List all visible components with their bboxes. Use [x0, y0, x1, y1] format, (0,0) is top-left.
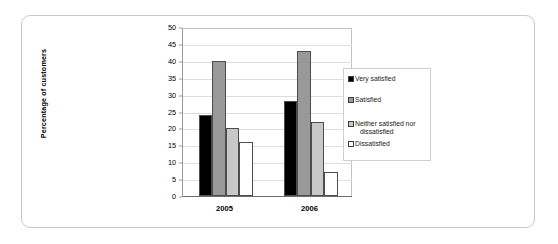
bar — [324, 172, 338, 196]
plot-area — [182, 28, 352, 197]
legend-swatch-icon — [348, 76, 354, 82]
y-tick-label: 20 — [168, 126, 176, 133]
legend-item[interactable]: Dissatisfied — [348, 140, 428, 148]
bar — [199, 115, 213, 196]
legend-label: Very satisfied — [355, 75, 395, 83]
bar — [284, 101, 298, 196]
y-tick-label: 30 — [168, 92, 176, 99]
bars-layer — [183, 28, 352, 196]
bar-chart: Percentage of customers 0510152025303540… — [22, 16, 536, 229]
bar — [239, 142, 253, 196]
legend-swatch-icon — [348, 121, 354, 127]
legend-item[interactable]: Satisfied — [348, 96, 428, 104]
legend-swatch-icon — [348, 97, 354, 103]
y-tick-label: 35 — [168, 75, 176, 82]
y-tick-label: 40 — [168, 58, 176, 65]
y-tick-label: 0 — [172, 193, 176, 200]
x-tick-label: 2006 — [301, 204, 318, 213]
bar — [212, 61, 226, 196]
y-tick-label: 25 — [168, 109, 176, 116]
y-tick-label: 45 — [168, 41, 176, 48]
legend-label: Neither satisfied nordissatisfied — [355, 120, 415, 137]
legend-item[interactable]: Very satisfied — [348, 75, 428, 83]
y-tick-label: 5 — [172, 176, 176, 183]
plot-wrapper: 05101520253035404550 20052006 — [161, 28, 352, 218]
x-tick-label: 2005 — [216, 204, 233, 213]
bar — [226, 128, 240, 196]
x-axis-labels: 20052006 — [182, 200, 352, 216]
legend-item[interactable]: Neither satisfied nordissatisfied — [348, 120, 428, 137]
legend-label: Dissatisfied — [355, 140, 390, 148]
y-axis-ticks: 05101520253035404550 — [161, 28, 179, 200]
chart-legend: Very satisfiedSatisfiedNeither satisfied… — [343, 68, 431, 161]
y-tick-label: 10 — [168, 160, 176, 167]
y-tick-label: 15 — [168, 143, 176, 150]
bar — [297, 51, 311, 196]
y-tick-label: 50 — [168, 24, 176, 31]
legend-swatch-icon — [348, 141, 354, 147]
bar — [311, 122, 325, 196]
y-axis-title: Percentage of customers — [39, 34, 48, 154]
legend-label: Satisfied — [355, 96, 381, 104]
legend-label-line2: dissatisfied — [355, 128, 415, 136]
figure-frame: Percentage of customers 0510152025303540… — [21, 15, 535, 228]
